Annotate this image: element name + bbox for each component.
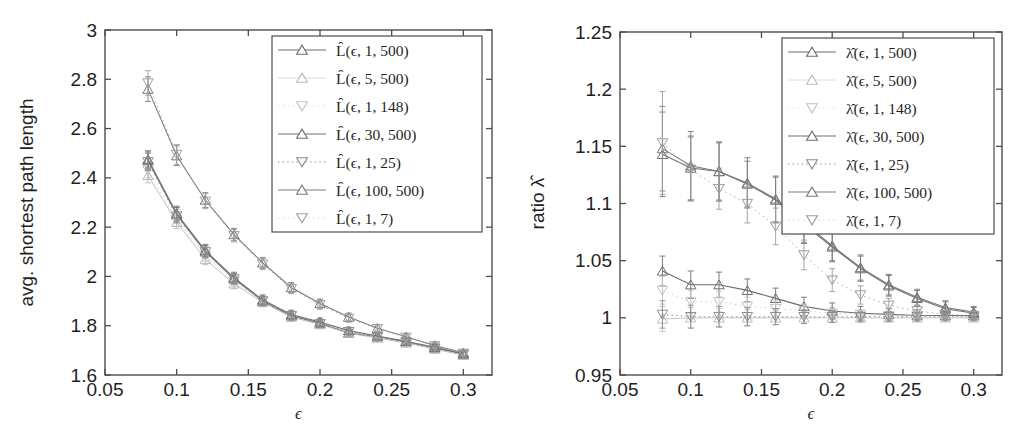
legend-label: λ̂(ϵ, 1, 148) xyxy=(846,100,917,118)
legend-label: L̂(ϵ, 1, 500) xyxy=(336,42,409,60)
x-tick-label: 0.25 xyxy=(884,379,921,400)
chart-panel-right: 0.050.10.150.20.250.30.9511.051.11.151.2… xyxy=(516,0,1032,434)
x-tick-label: 0.3 xyxy=(960,379,986,400)
y-tick-label: 1.05 xyxy=(575,250,612,271)
series-2 xyxy=(657,277,979,322)
chart-svg-right: 0.050.10.150.20.250.30.9511.051.11.151.2… xyxy=(516,0,1032,434)
chart-svg-left: 0.050.10.150.20.250.31.61.822.22.42.62.8… xyxy=(0,0,516,434)
y-tick-label: 1.6 xyxy=(71,365,97,386)
series-line xyxy=(662,318,973,319)
x-tick-label: 0.1 xyxy=(163,379,189,400)
legend-label: L̂(ϵ, 5, 500) xyxy=(336,70,409,88)
legend: λ̂(ϵ, 1, 500)λ̂(ϵ, 5, 500)λ̂(ϵ, 1, 148)λ… xyxy=(782,38,994,234)
y-axis-label: ratio λ̂ xyxy=(527,174,548,230)
y-axis-label: avg. shortest path length xyxy=(16,98,37,306)
y-tick-label: 1.1 xyxy=(586,193,612,214)
legend-label: λ̂(ϵ, 1, 7) xyxy=(846,212,901,230)
legend-label: L̂(ϵ, 1, 7) xyxy=(336,210,393,228)
legend-label: L̂(ϵ, 1, 148) xyxy=(336,98,409,116)
legend-label: λ̂(ϵ, 30, 500) xyxy=(846,128,924,146)
series-line xyxy=(662,271,973,316)
x-tick-label: 0.15 xyxy=(743,379,780,400)
x-tick-label: 0.2 xyxy=(307,379,333,400)
legend-label: λ̂(ϵ, 1, 500) xyxy=(846,44,917,62)
series-1 xyxy=(657,306,979,331)
legend-label: L̂(ϵ, 100, 500) xyxy=(336,182,424,200)
y-tick-label: 2.4 xyxy=(71,167,98,188)
series-4 xyxy=(657,301,979,328)
legend-label: λ̂(ϵ, 1, 25) xyxy=(846,156,909,174)
y-tick-label: 2 xyxy=(86,266,97,287)
x-tick-label: 0.15 xyxy=(230,379,267,400)
figure-root: 0.050.10.150.20.250.31.61.822.22.42.62.8… xyxy=(0,0,1032,434)
y-tick-label: 1.2 xyxy=(586,79,612,100)
legend: L̂(ϵ, 1, 500)L̂(ϵ, 5, 500)L̂(ϵ, 1, 148)L… xyxy=(272,36,482,232)
legend-label: λ̂(ϵ, 5, 500) xyxy=(846,72,917,90)
y-tick-label: 2.6 xyxy=(71,118,97,139)
y-tick-label: 1 xyxy=(601,307,612,328)
y-tick-label: 2.2 xyxy=(71,217,97,238)
y-tick-label: 2.8 xyxy=(71,69,97,90)
x-tick-label: 0.25 xyxy=(373,379,410,400)
y-tick-label: 3 xyxy=(86,20,97,41)
legend-label: λ̂(ϵ, 100, 500) xyxy=(846,184,932,202)
y-tick-label: 0.95 xyxy=(575,365,612,386)
x-tick-label: 0.2 xyxy=(819,379,845,400)
series-line xyxy=(662,290,973,316)
series-0 xyxy=(657,256,979,321)
y-tick-label: 1.8 xyxy=(71,315,97,336)
y-tick-label: 1.15 xyxy=(575,136,612,157)
legend-label: L̂(ϵ, 30, 500) xyxy=(336,126,416,144)
x-axis-label: ϵ xyxy=(808,404,816,423)
chart-panel-left: 0.050.10.150.20.250.31.61.822.22.42.62.8… xyxy=(0,0,516,434)
legend-label: L̂(ϵ, 1, 25) xyxy=(336,154,401,172)
y-tick-label: 1.25 xyxy=(575,22,612,43)
x-tick-label: 0.1 xyxy=(678,379,704,400)
x-axis-label: ϵ xyxy=(295,404,303,423)
x-tick-label: 0.3 xyxy=(450,379,476,400)
